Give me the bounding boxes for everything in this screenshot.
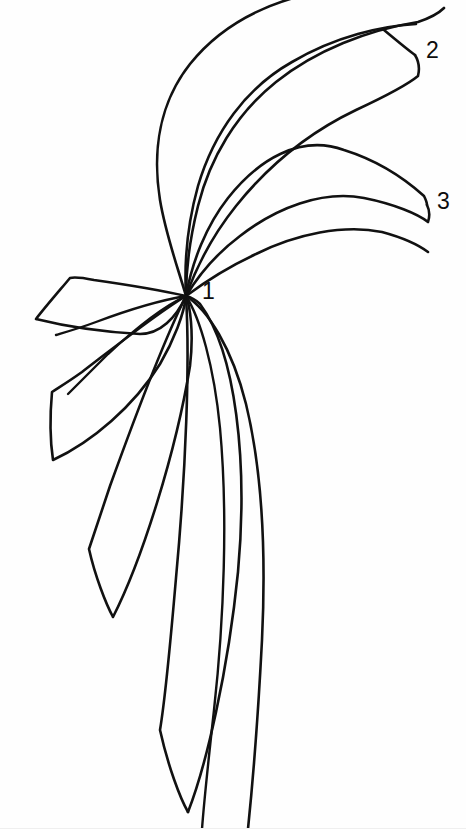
petal-mid-lower-arc: [186, 229, 428, 296]
petal-diagram-svg: [0, 0, 466, 829]
label-3: 3: [437, 190, 450, 213]
petal-mid-third: [186, 145, 427, 296]
petal-mid-fourth: [186, 196, 429, 296]
label-1: 1: [202, 280, 215, 303]
petal-left-second: [51, 296, 186, 460]
label-2: 2: [426, 39, 439, 62]
figure-canvas: 1 2 3: [0, 0, 466, 829]
petal-left-upper: [36, 278, 186, 334]
petal-hub-stroke-left-a: [56, 296, 186, 335]
petal-lower-long-left: [160, 296, 188, 812]
petal-2-tip: [384, 30, 415, 55]
petal-lower-long-right: [186, 296, 241, 812]
petal-lower-inner-right: [186, 296, 224, 829]
